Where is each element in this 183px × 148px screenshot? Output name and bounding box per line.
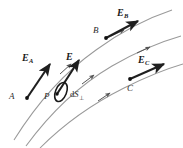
- point-marker-C: [128, 77, 132, 81]
- label-area-element-symbol: S: [74, 89, 78, 99]
- label-E-A: EA: [22, 53, 33, 65]
- vector-E-B: [106, 21, 138, 38]
- label-E-B-symbol: E: [117, 7, 124, 18]
- label-point-C: C: [127, 84, 133, 93]
- label-E-symbol: E: [66, 51, 73, 62]
- label-point-P: P: [44, 92, 50, 101]
- label-E-A-subscript: A: [29, 57, 33, 64]
- point-marker-B: [104, 36, 108, 40]
- label-E-C-subscript: C: [145, 59, 149, 66]
- label-E-C: EC: [138, 55, 149, 67]
- label-point-A: A: [9, 92, 15, 101]
- direction-arrow-upper-1: [60, 64, 71, 74]
- label-area-element-subscript: ⊥: [79, 95, 84, 101]
- direction-arrow-middle-2: [137, 47, 150, 53]
- label-E-C-symbol: E: [138, 54, 145, 65]
- label-area-element: dS⊥: [70, 90, 84, 101]
- electric-field-lines-figure: EA E EB EC A B C P dS⊥: [0, 0, 183, 148]
- field-line-lower: [40, 64, 183, 148]
- label-E-B-subscript: B: [124, 12, 128, 19]
- label-E: E: [66, 52, 73, 62]
- label-point-B: B: [93, 26, 99, 35]
- label-E-A-symbol: E: [22, 52, 29, 63]
- label-E-B: EB: [117, 8, 128, 20]
- figure-canvas: [0, 0, 183, 148]
- point-marker-A: [25, 96, 29, 100]
